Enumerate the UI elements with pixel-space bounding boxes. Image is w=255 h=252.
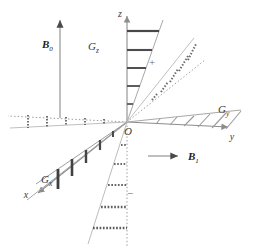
figure-canvas: z y x O Gz Gy Gx + − B0 bbox=[0, 0, 255, 252]
minus-sign: − bbox=[127, 187, 133, 199]
gz-label-base: G bbox=[88, 40, 96, 52]
y-axis-negative-dotted bbox=[8, 116, 127, 122]
gradient-wedge-gz-mirror bbox=[88, 122, 127, 244]
gz-mirror-hypotenuse bbox=[88, 122, 127, 244]
gy-hatch bbox=[198, 114, 210, 127]
field-label-b1: B1 bbox=[187, 150, 199, 165]
y-axis-line bbox=[127, 122, 228, 127]
gz-wedge-hypotenuse bbox=[127, 20, 163, 122]
gy-mirror-dots bbox=[188, 44, 196, 60]
gradient-wedge-gz bbox=[127, 20, 163, 122]
gradient-wedge-gx bbox=[27, 122, 127, 200]
gx-label-base: G bbox=[41, 173, 49, 185]
b1-label-subscript: 1 bbox=[195, 157, 199, 165]
plus-sign: + bbox=[149, 56, 155, 68]
gy-hatch bbox=[184, 116, 194, 126]
x-axis-negative-dotted bbox=[127, 60, 205, 122]
gy-mirror-dots bbox=[170, 69, 178, 82]
y-axis-label: y bbox=[229, 131, 235, 142]
coordinate-gradient-diagram: z y x O Gz Gy Gx + − B0 bbox=[0, 0, 255, 252]
gradient-label-gz: Gz bbox=[88, 40, 99, 55]
x-axis-label: x bbox=[23, 189, 29, 200]
field-label-b0: B0 bbox=[41, 38, 53, 53]
z-axis-label: z bbox=[117, 8, 122, 19]
gradient-wedge-gx-mirror bbox=[10, 115, 127, 128]
b0-label-base: B bbox=[41, 38, 49, 50]
b1-label-base: B bbox=[187, 150, 195, 162]
origin-label: O bbox=[124, 125, 132, 137]
gy-label-base: G bbox=[218, 103, 226, 115]
gy-hatch bbox=[212, 113, 226, 128]
gz-label-subscript: z bbox=[95, 46, 99, 55]
gx-label-subscript: x bbox=[48, 179, 53, 188]
b0-label-subscript: 0 bbox=[49, 45, 53, 53]
gy-mirror-dots bbox=[179, 56, 188, 71]
gy-label-subscript: y bbox=[225, 109, 230, 118]
axes-group bbox=[8, 16, 228, 248]
